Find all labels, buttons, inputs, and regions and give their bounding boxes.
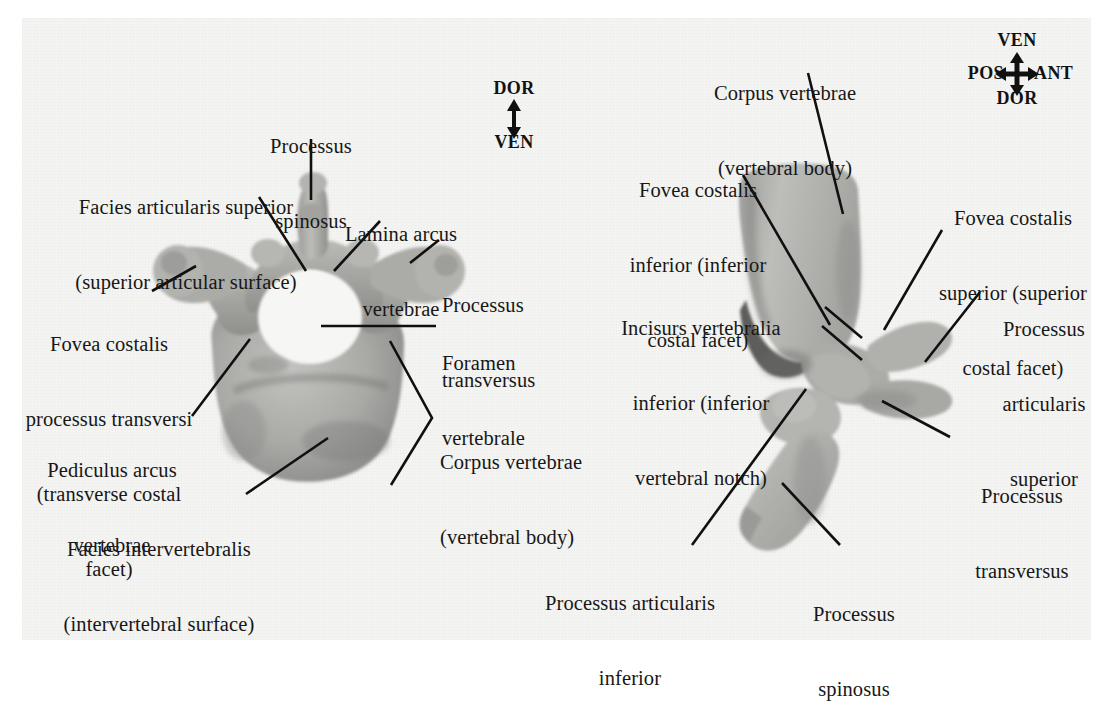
lead-incisurs-vertebralia-inferior-2 bbox=[822, 326, 862, 360]
dorsal-ventral-compass: DOR VEN bbox=[478, 78, 550, 150]
label-processus-transversus-right: Processus transversus bbox=[946, 434, 1098, 634]
label-incisurs-vertebralia-inferior: Incisurs vertebralia inferior (inferior … bbox=[590, 266, 812, 541]
compass-label-anterior: ANT bbox=[1034, 63, 1086, 84]
compass-label-dorsal: DOR bbox=[478, 78, 550, 99]
compass-label-ventral: VEN bbox=[478, 132, 550, 153]
label-processus-articularis-inferior: Processus articularis inferior bbox=[496, 541, 764, 705]
label-facies-intervertebralis: Facies intervertebralis (intervertebral … bbox=[14, 487, 304, 687]
lead-facies-intervertebralis bbox=[246, 438, 328, 494]
four-way-arrow-icon bbox=[995, 52, 1039, 96]
four-way-orientation-compass: VEN POS ANT DOR bbox=[952, 30, 1082, 112]
compass-label-ventral: VEN bbox=[952, 30, 1082, 51]
label-processus-spinosus-right: Processus spinosus bbox=[772, 552, 936, 705]
